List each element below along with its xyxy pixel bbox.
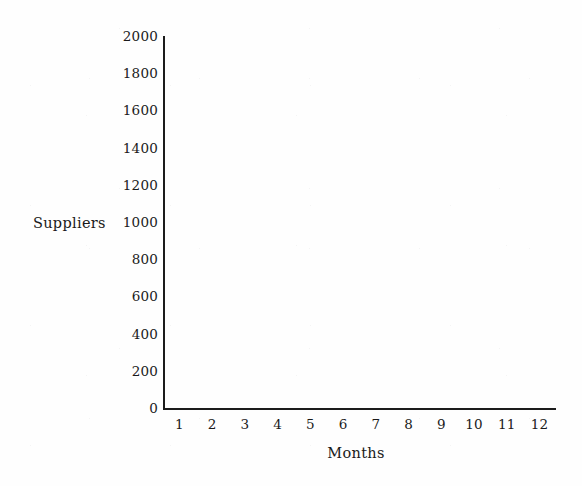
- x-axis-tick-labels: 123456789101112: [163, 416, 556, 436]
- y-tick-label: 1400: [100, 141, 158, 155]
- x-tick-label: 7: [371, 416, 380, 432]
- y-tick-label: 0: [100, 401, 158, 415]
- x-tick-label: 2: [208, 416, 217, 432]
- y-tick-label: 1600: [100, 103, 158, 117]
- x-tick-label: 6: [339, 416, 348, 432]
- y-tick-label: 400: [100, 327, 158, 341]
- y-axis-tick-labels: 2000180016001400120010008006004002000: [100, 0, 158, 486]
- y-tick-label: 2000: [100, 29, 158, 43]
- x-tick-label: 12: [531, 416, 549, 432]
- x-axis-title-text: Months: [327, 445, 384, 461]
- x-tick-label: 10: [465, 416, 483, 432]
- x-tick-label: 11: [498, 416, 516, 432]
- y-axis-line: [163, 36, 165, 410]
- x-axis-title: Months: [0, 444, 582, 462]
- x-tick-label: 8: [404, 416, 413, 432]
- y-tick-label: 1800: [100, 66, 158, 80]
- y-tick-label: 800: [100, 252, 158, 266]
- x-tick-label: 1: [175, 416, 184, 432]
- x-tick-label: 4: [273, 416, 282, 432]
- chart-figure: 2000180016001400120010008006004002000 12…: [0, 0, 582, 486]
- y-axis-title: Suppliers: [33, 214, 106, 232]
- y-tick-label: 1200: [100, 178, 158, 192]
- y-tick-label: 600: [100, 289, 158, 303]
- x-tick-label: 5: [306, 416, 315, 432]
- y-tick-label: 1000: [100, 215, 158, 229]
- x-tick-label: 3: [240, 416, 249, 432]
- x-tick-label: 9: [437, 416, 446, 432]
- x-axis-line: [163, 408, 556, 410]
- plot-area: [165, 36, 556, 408]
- y-tick-label: 200: [100, 364, 158, 378]
